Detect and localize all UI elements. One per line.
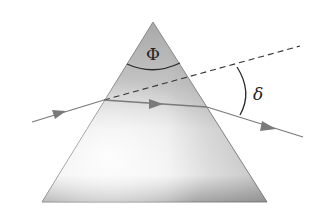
arrow-icon (260, 121, 276, 131)
deviation-angle-arc (237, 67, 246, 115)
prism-diagram: Φ δ (0, 0, 328, 212)
deviation-angle-label: δ (253, 84, 263, 104)
arrow-icon (52, 110, 66, 119)
apex-angle-label: Φ (146, 44, 160, 64)
